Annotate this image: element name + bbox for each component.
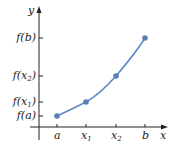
x-tick-label-b: b <box>142 130 149 141</box>
data-point <box>54 113 60 119</box>
y-tick-label-fx1: f(x1) <box>0 96 36 109</box>
data-point <box>113 73 119 79</box>
data-point <box>83 99 89 105</box>
chart-figure: y x f(b) f(x2) f(x1) f(a) a x1 x2 b <box>0 0 173 145</box>
x-tick-label-a: a <box>54 130 61 141</box>
y-axis-arrow-icon <box>37 6 42 13</box>
y-tick-label-fa: f(a) <box>0 110 36 123</box>
x-axis-label: x <box>160 130 166 141</box>
x-tick-label-x2: x2 <box>111 130 122 143</box>
function-curve <box>57 38 145 116</box>
y-axis-label: y <box>28 5 34 16</box>
x-tick-label-x1: x1 <box>81 130 92 143</box>
y-tick-label-fb: f(b) <box>0 32 36 45</box>
y-tick-label-fx2: f(x2) <box>0 70 36 83</box>
data-point <box>142 35 148 41</box>
